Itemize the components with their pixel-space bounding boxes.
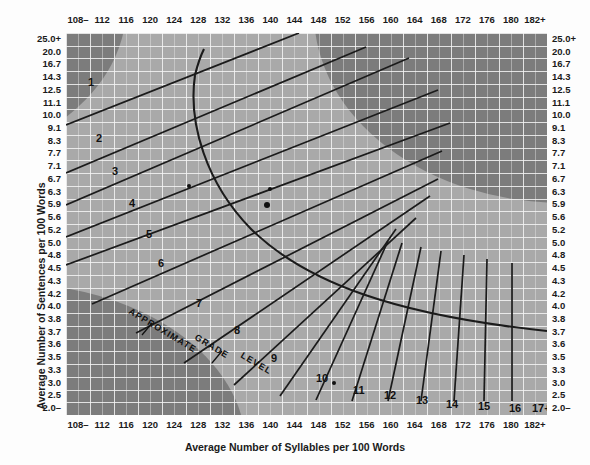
grade-label-1: 1 — [88, 77, 94, 88]
y-tick-right-12: 6.3 — [552, 187, 586, 197]
y-tick-right-20: 4.2 — [552, 289, 586, 299]
y-axis-title: Average Number of Sentences per 100 Word… — [35, 181, 47, 411]
y-tick-right-1: 20.0 — [552, 47, 586, 57]
grade-label-15: 15 — [478, 401, 490, 412]
y-tick-left-0: 25.0+ — [27, 34, 61, 44]
y-tick-right-25: 3.5 — [552, 352, 586, 362]
y-tick-right-22: 3.8 — [552, 314, 586, 324]
plot-area: 1234567891011121314151617+ APPROXIMATE G… — [66, 33, 547, 415]
y-tick-right-16: 5.0 — [552, 238, 586, 248]
y-tick-right-28: 2.5 — [552, 390, 586, 400]
x-axis-title: Average Number of Syllables per 100 Word… — [0, 441, 590, 453]
grade-label-5: 5 — [146, 229, 152, 240]
grade-label-16: 16 — [509, 403, 521, 414]
y-tick-right-29: 2.0– — [552, 403, 586, 413]
grade-label-4: 4 — [129, 198, 135, 209]
y-tick-right-14: 5.6 — [552, 212, 586, 222]
y-tick-right-2: 16.7 — [552, 59, 586, 69]
y-tick-left-1: 20.0 — [27, 47, 61, 57]
y-tick-right-17: 4.8 — [552, 250, 586, 260]
grade-label-14: 14 — [446, 399, 458, 410]
y-tick-right-24: 3.6 — [552, 339, 586, 349]
grade-label-9: 9 — [271, 353, 277, 364]
y-tick-right-8: 8.3 — [552, 136, 586, 146]
y-tick-right-9: 7.7 — [552, 148, 586, 158]
grade-boundary-lines — [66, 33, 512, 401]
y-tick-left-3: 14.3 — [27, 72, 61, 82]
y-tick-right-15: 5.2 — [552, 225, 586, 235]
y-tick-right-6: 10.0 — [552, 110, 586, 120]
y-tick-right-10: 7.1 — [552, 161, 586, 171]
y-tick-left-5: 11.1 — [27, 98, 61, 108]
grade-label-7: 7 — [196, 298, 202, 309]
grade-label-17plus: 17+ — [532, 403, 547, 414]
y-tick-right-18: 4.5 — [552, 263, 586, 273]
y-tick-right-23: 3.7 — [552, 327, 586, 337]
y-tick-right-26: 3.3 — [552, 365, 586, 375]
y-tick-right-7: 9.1 — [552, 123, 586, 133]
y-tick-left-2: 16.7 — [27, 59, 61, 69]
grade-label-2: 2 — [96, 133, 102, 144]
grade-label-11: 11 — [353, 385, 365, 396]
y-tick-right-0: 25.0+ — [552, 34, 586, 44]
y-tick-right-13: 5.9 — [552, 199, 586, 209]
y-tick-right-11: 6.7 — [552, 174, 586, 184]
x-tick-19: 182+ — [520, 419, 550, 430]
y-axis-title-wrapper: Average Number of Sentences per 100 Word… — [8, 100, 28, 330]
fry-readability-graph: 108–112116120124128132136140144148152156… — [0, 0, 590, 465]
y-tick-right-19: 4.3 — [552, 276, 586, 286]
validity-curve-lower — [194, 75, 547, 331]
grade-label-12: 12 — [384, 390, 396, 401]
y-tick-left-7: 9.1 — [27, 123, 61, 133]
grade-level-curves — [66, 33, 547, 415]
grade-label-10: 10 — [316, 373, 328, 384]
data-point-3 — [332, 381, 336, 385]
grade-label-3: 3 — [112, 166, 118, 177]
grade-label-6: 6 — [158, 258, 164, 269]
y-tick-left-9: 7.7 — [27, 148, 61, 158]
y-tick-right-5: 11.1 — [552, 98, 586, 108]
y-tick-left-4: 12.5 — [27, 85, 61, 95]
y-tick-right-3: 14.3 — [552, 72, 586, 82]
y-tick-right-27: 3.0 — [552, 378, 586, 388]
grade-label-13: 13 — [416, 395, 428, 406]
grade-label-8: 8 — [234, 325, 240, 336]
x-tick-19: 182+ — [520, 14, 550, 25]
y-tick-right-4: 12.5 — [552, 85, 586, 95]
y-tick-left-8: 8.3 — [27, 136, 61, 146]
y-tick-left-10: 7.1 — [27, 161, 61, 171]
y-tick-right-21: 4.0 — [552, 301, 586, 311]
y-tick-left-6: 10.0 — [27, 110, 61, 120]
